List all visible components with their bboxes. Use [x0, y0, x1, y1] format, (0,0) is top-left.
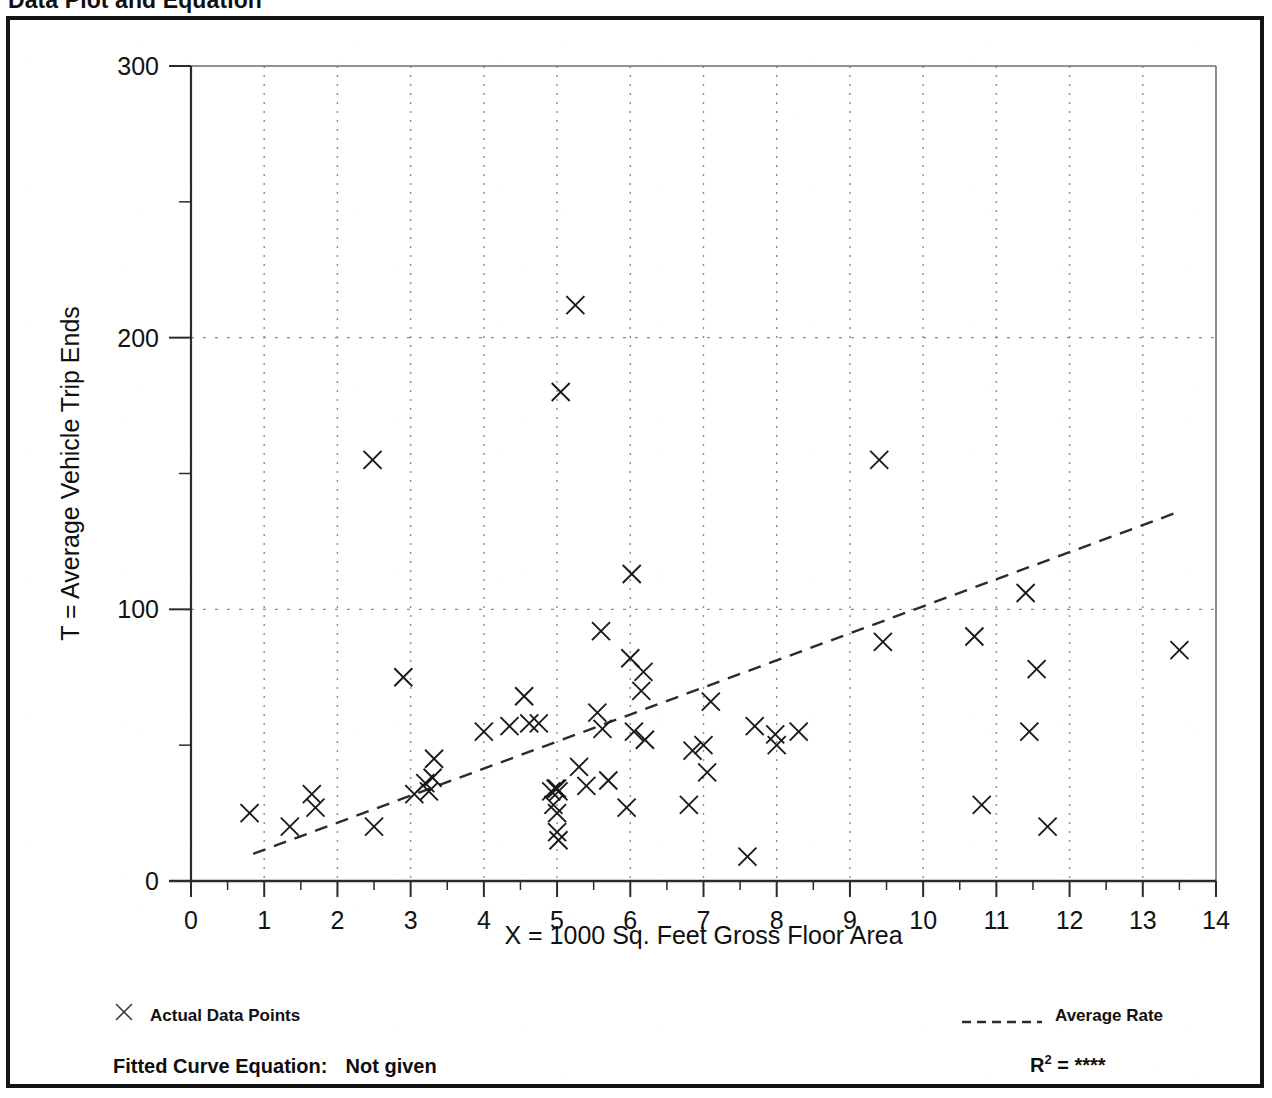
rsq-exponent: 2 — [1044, 1052, 1051, 1067]
data-point-marker — [566, 296, 584, 314]
data-point-marker — [364, 451, 382, 469]
data-point-marker — [1028, 660, 1046, 678]
data-point-marker — [281, 818, 299, 836]
x-tick-label: 1 — [257, 906, 271, 934]
data-point-marker — [874, 633, 892, 651]
trendline-group — [253, 512, 1179, 854]
data-point-marker — [515, 687, 533, 705]
data-point-marker — [1039, 818, 1057, 836]
data-point-marker — [530, 714, 548, 732]
legend-label-average-rate: Average Rate — [1055, 1006, 1163, 1026]
data-point-marker — [500, 717, 518, 735]
data-point-marker — [577, 777, 595, 795]
tick-labels-group: 012345678910111213140100200300 — [117, 52, 1230, 934]
data-point-marker — [593, 720, 611, 738]
x-tick-label: 12 — [1056, 906, 1084, 934]
fitted-curve-equation: Fitted Curve Equation: Not given — [113, 1055, 437, 1078]
data-point-marker — [1017, 584, 1035, 602]
y-tick-label: 100 — [117, 595, 159, 623]
data-point-marker — [680, 796, 698, 814]
gridlines-group — [191, 66, 1216, 881]
data-point-marker — [570, 758, 588, 776]
axes-group — [169, 66, 1216, 883]
data-point-marker — [552, 383, 570, 401]
x-marker-icon — [113, 1001, 135, 1023]
data-point-marker — [965, 628, 983, 646]
y-tick-label: 300 — [117, 52, 159, 80]
equation-value: Not given — [346, 1055, 437, 1077]
data-points-group — [241, 296, 1189, 865]
data-point-marker — [738, 848, 756, 866]
y-tick-label: 0 — [145, 867, 159, 895]
data-point-marker — [592, 622, 610, 640]
data-point-marker — [870, 451, 888, 469]
data-point-marker — [425, 750, 443, 768]
dashed-line-icon — [962, 1010, 1042, 1014]
x-axis-title: X = 1000 Sq. Feet Gross Floor Area — [504, 921, 902, 949]
x-tick-label: 0 — [184, 906, 198, 934]
data-point-marker — [1020, 723, 1038, 741]
average-rate-trendline — [253, 512, 1179, 854]
data-point-marker — [625, 723, 643, 741]
scatter-plot: 012345678910111213140100200300 X = 1000 … — [0, 0, 1272, 1098]
legend-label-data-points: Actual Data Points — [150, 1006, 300, 1026]
x-tick-label: 2 — [330, 906, 344, 934]
x-tick-label: 14 — [1202, 906, 1230, 934]
data-point-marker — [623, 565, 641, 583]
rsq-symbol: R — [1030, 1054, 1044, 1076]
equation-label: Fitted Curve Equation: — [113, 1055, 327, 1077]
x-tick-label: 13 — [1129, 906, 1157, 934]
data-point-marker — [303, 785, 321, 803]
data-point-marker — [520, 714, 538, 732]
data-point-marker — [241, 804, 259, 822]
x-tick-label: 11 — [983, 906, 1009, 934]
data-point-marker — [548, 804, 566, 822]
data-point-marker — [1170, 641, 1188, 659]
data-point-marker — [394, 668, 412, 686]
data-point-marker — [698, 763, 716, 781]
y-tick-label: 200 — [117, 324, 159, 352]
data-point-marker — [746, 717, 764, 735]
data-point-marker — [636, 731, 654, 749]
data-point-marker — [424, 769, 442, 787]
x-tick-label: 4 — [477, 906, 491, 934]
rsq-equals: = — [1057, 1054, 1069, 1076]
data-point-marker — [365, 818, 383, 836]
data-point-marker — [475, 723, 493, 741]
data-point-marker — [634, 663, 652, 681]
x-tick-label: 3 — [404, 906, 418, 934]
x-tick-label: 10 — [909, 906, 937, 934]
data-point-marker — [306, 799, 324, 817]
y-axis-title: T = Average Vehicle Trip Ends — [56, 306, 84, 641]
data-point-marker — [702, 693, 720, 711]
r-squared-value: R2 = **** — [1030, 1052, 1106, 1077]
data-point-marker — [973, 796, 991, 814]
data-point-marker — [632, 682, 650, 700]
tick-marks-group — [169, 66, 1216, 897]
axis-titles-group: X = 1000 Sq. Feet Gross Floor AreaT = Av… — [56, 306, 903, 949]
data-point-marker — [588, 704, 606, 722]
rsq-stars: **** — [1075, 1054, 1106, 1076]
data-point-marker — [618, 799, 636, 817]
data-point-marker — [599, 771, 617, 789]
data-point-marker — [790, 723, 808, 741]
